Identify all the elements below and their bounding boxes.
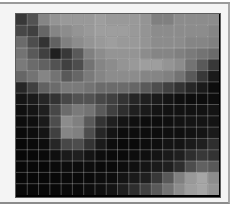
heatmap-cell-r1-c2: [39, 25, 50, 36]
heatmap-cell-r12-c2: [39, 150, 50, 161]
heatmap-cell-r9-c8: [106, 116, 117, 127]
heatmap-cell-r7-c3: [50, 93, 61, 104]
heatmap-cell-r12-c9: [118, 150, 129, 161]
heatmap-cell-r2-c17: [208, 37, 219, 48]
heatmap-cell-r14-c8: [106, 172, 117, 183]
heatmap-cell-r5-c11: [140, 71, 151, 82]
heatmap-cell-r4-c0: [16, 59, 27, 70]
heatmap-cell-r15-c17: [208, 184, 219, 195]
heatmap-cell-r4-c4: [61, 59, 72, 70]
heatmap-cell-r0-c0: [16, 14, 27, 25]
heatmap-cell-r11-c10: [129, 138, 140, 149]
heatmap-cell-r3-c3: [50, 48, 61, 59]
heatmap-cell-r4-c14: [174, 59, 185, 70]
heatmap-cell-r7-c13: [163, 93, 174, 104]
heatmap-cell-r0-c8: [106, 14, 117, 25]
heatmap-cell-r9-c1: [27, 116, 38, 127]
heatmap-cell-r7-c9: [118, 93, 129, 104]
heatmap-cell-r7-c12: [151, 93, 162, 104]
heatmap-cell-r13-c8: [106, 161, 117, 172]
heatmap-cell-r10-c16: [196, 127, 207, 138]
heatmap-cell-r13-c16: [196, 161, 207, 172]
heatmap-cell-r15-c2: [39, 184, 50, 195]
heatmap-cell-r4-c13: [163, 59, 174, 70]
heatmap-cell-r6-c2: [39, 82, 50, 93]
heatmap-cell-r12-c13: [163, 150, 174, 161]
heatmap-cell-r2-c14: [174, 37, 185, 48]
heatmap-cell-r13-c2: [39, 161, 50, 172]
heatmap-cell-r6-c1: [27, 82, 38, 93]
heatmap-cell-r1-c10: [129, 25, 140, 36]
heatmap-cell-r6-c16: [196, 82, 207, 93]
heatmap-cell-r2-c12: [151, 37, 162, 48]
heatmap-cell-r2-c11: [140, 37, 151, 48]
heatmap-cell-r10-c15: [185, 127, 196, 138]
heatmap-cell-r5-c0: [16, 71, 27, 82]
heatmap-cell-r6-c7: [95, 82, 106, 93]
heatmap-cell-r8-c4: [61, 105, 72, 116]
heatmap-cell-r10-c8: [106, 127, 117, 138]
heatmap-cell-r7-c10: [129, 93, 140, 104]
heatmap-cell-r11-c3: [50, 138, 61, 149]
heatmap-cell-r11-c1: [27, 138, 38, 149]
heatmap-cell-r14-c6: [84, 172, 95, 183]
heatmap-cell-r6-c10: [129, 82, 140, 93]
heatmap-cell-r4-c17: [208, 59, 219, 70]
heatmap-cell-r4-c12: [151, 59, 162, 70]
heatmap-cell-r1-c1: [27, 25, 38, 36]
heatmap-cell-r13-c17: [208, 161, 219, 172]
heatmap-cell-r15-c11: [140, 184, 151, 195]
heatmap-cell-r9-c4: [61, 116, 72, 127]
heatmap-cell-r8-c16: [196, 105, 207, 116]
heatmap-cell-r3-c14: [174, 48, 185, 59]
heatmap-cell-r10-c17: [208, 127, 219, 138]
heatmap-cell-r15-c13: [163, 184, 174, 195]
heatmap-cell-r6-c5: [72, 82, 83, 93]
heatmap-cell-r15-c4: [61, 184, 72, 195]
heatmap-cell-r0-c6: [84, 14, 95, 25]
heatmap-cell-r3-c16: [196, 48, 207, 59]
heatmap-cell-r7-c17: [208, 93, 219, 104]
heatmap-cell-r10-c6: [84, 127, 95, 138]
heatmap-cell-r0-c15: [185, 14, 196, 25]
heatmap-cell-r0-c2: [39, 14, 50, 25]
heatmap-cell-r0-c12: [151, 14, 162, 25]
heatmap-cell-r6-c4: [61, 82, 72, 93]
heatmap-cell-r5-c8: [106, 71, 117, 82]
heatmap-cell-r5-c5: [72, 71, 83, 82]
heatmap-cell-r1-c0: [16, 25, 27, 36]
heatmap-cell-r11-c9: [118, 138, 129, 149]
heatmap-cell-r0-c1: [27, 14, 38, 25]
heatmap-cell-r5-c13: [163, 71, 174, 82]
heatmap-cell-r6-c14: [174, 82, 185, 93]
heatmap-cell-r6-c12: [151, 82, 162, 93]
heatmap-cell-r11-c15: [185, 138, 196, 149]
heatmap-cell-r6-c11: [140, 82, 151, 93]
heatmap-cell-r12-c10: [129, 150, 140, 161]
heatmap-cell-r11-c4: [61, 138, 72, 149]
heatmap-cell-r12-c14: [174, 150, 185, 161]
heatmap-cell-r0-c7: [95, 14, 106, 25]
heatmap-cell-r0-c14: [174, 14, 185, 25]
heatmap-cell-r13-c15: [185, 161, 196, 172]
heatmap-cell-r2-c10: [129, 37, 140, 48]
heatmap-cell-r11-c17: [208, 138, 219, 149]
heatmap-cell-r14-c9: [118, 172, 129, 183]
heatmap-cell-r1-c7: [95, 25, 106, 36]
heatmap-cell-r8-c9: [118, 105, 129, 116]
heatmap-cell-r12-c17: [208, 150, 219, 161]
heatmap-cell-r1-c14: [174, 25, 185, 36]
heatmap-cell-r7-c5: [72, 93, 83, 104]
heatmap-cell-r5-c14: [174, 71, 185, 82]
heatmap-cell-r9-c17: [208, 116, 219, 127]
heatmap-cell-r15-c16: [196, 184, 207, 195]
heatmap-cell-r9-c2: [39, 116, 50, 127]
heatmap-cell-r4-c16: [196, 59, 207, 70]
heatmap-cell-r2-c1: [27, 37, 38, 48]
heatmap-cell-r9-c3: [50, 116, 61, 127]
heatmap-cell-r13-c10: [129, 161, 140, 172]
heatmap-cell-r7-c6: [84, 93, 95, 104]
heatmap-cell-r12-c6: [84, 150, 95, 161]
heatmap-cell-r10-c0: [16, 127, 27, 138]
heatmap-cell-r12-c4: [61, 150, 72, 161]
